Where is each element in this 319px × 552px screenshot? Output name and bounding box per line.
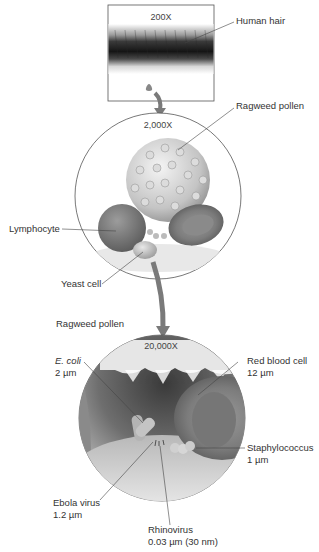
label-yeast-cell: Yeast cell [61,278,101,290]
ebola-name: Ebola virus [53,497,100,509]
cells-panel [75,113,241,279]
label-red-blood-cell: Red blood cell 12 µm [247,355,307,379]
label-rhinovirus: Rhinovirus 0.03 µm (30 nm) [148,524,218,548]
label-staphylococcus: Staphylococcus 1 µm [247,442,314,466]
diagram-artwork [0,0,319,552]
ecoli-name: E. coli [55,355,81,367]
rbc-name: Red blood cell [247,355,307,367]
label-lymphocyte: Lymphocyte [9,223,60,235]
rhino-size: 0.03 µm (30 nm) [148,536,218,548]
rhino-name: Rhinovirus [148,524,218,536]
label-ragweed-pollen-2: Ragweed pollen [56,318,124,330]
label-ecoli: E. coli 2 µm [55,355,81,379]
magnification-200x: 200X [131,12,191,22]
microbes-panel [67,330,270,525]
label-ebola-virus: Ebola virus 1.2 µm [53,497,100,521]
ebola-size: 1.2 µm [53,509,100,521]
staph-name: Staphylococcus [247,442,314,454]
label-human-hair: Human hair [236,15,285,27]
rbc-size: 12 µm [247,367,307,379]
label-ragweed-pollen-1: Ragweed pollen [236,100,304,112]
magnification-20000x: 20,000X [131,341,191,351]
staph-size: 1 µm [247,454,314,466]
ecoli-size: 2 µm [55,367,81,379]
magnification-2000x: 2,000X [128,120,188,130]
